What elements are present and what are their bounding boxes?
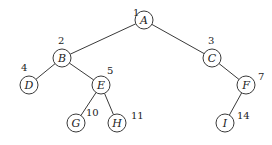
node-G: G10 — [67, 107, 99, 132]
node-number: 10 — [86, 107, 99, 118]
edge-A-C — [152, 24, 204, 53]
node-C: C3 — [203, 35, 221, 67]
node-number: 5 — [107, 65, 113, 76]
binary-tree-diagram: A1B2C3D4E5F7G10H11I14 — [0, 0, 272, 145]
node-number: 11 — [131, 110, 144, 121]
node-A: A1 — [133, 7, 153, 29]
node-label: I — [222, 117, 228, 130]
node-label: A — [139, 14, 148, 27]
node-number: 2 — [58, 35, 64, 46]
node-E: E5 — [92, 65, 113, 94]
node-label: E — [96, 79, 105, 92]
edge-E-H — [104, 93, 113, 114]
node-I: I14 — [216, 110, 250, 132]
node-D: D4 — [20, 62, 38, 94]
edge-C-F — [219, 64, 239, 80]
node-label: C — [208, 52, 217, 65]
node-F: F7 — [237, 71, 264, 94]
edge-A-B — [70, 24, 136, 54]
node-number: 7 — [258, 71, 264, 82]
node-label: F — [241, 79, 250, 92]
node-number: 3 — [208, 35, 214, 46]
node-number: 4 — [21, 62, 27, 73]
node-label: D — [24, 79, 34, 92]
tree-nodes: A1B2C3D4E5F7G10H11I14 — [20, 7, 264, 132]
edge-B-E — [69, 63, 93, 80]
node-number: 1 — [133, 7, 139, 18]
node-number: 14 — [237, 110, 250, 121]
edge-B-D — [36, 64, 55, 80]
node-label: B — [57, 52, 66, 65]
node-label: G — [72, 117, 81, 130]
node-label: H — [111, 117, 122, 130]
node-B: B2 — [53, 35, 71, 67]
